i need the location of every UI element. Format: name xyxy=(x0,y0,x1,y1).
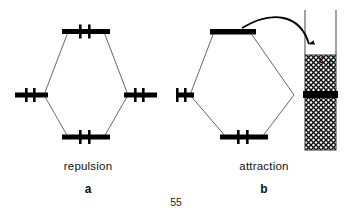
level-left-atomic-a xyxy=(15,88,48,102)
figure-root: repulsion a xyxy=(0,0,352,216)
band-hatched-region xyxy=(305,55,336,150)
level-antibonding-b xyxy=(210,29,256,35)
panel-b-diagram: ϵ F xyxy=(176,0,352,158)
level-antibonding-a xyxy=(62,25,110,39)
level-left-atomic-b xyxy=(176,88,194,102)
level-bonding-b xyxy=(220,130,268,144)
fermi-epsilon-glyph: ϵ xyxy=(319,51,325,66)
level-right-atomic-a xyxy=(124,88,157,102)
panel-b-caption: attraction xyxy=(176,160,352,172)
metal-band xyxy=(303,10,338,150)
band-solid-level-bar xyxy=(303,91,338,98)
page-number: 55 xyxy=(0,196,352,208)
level-bonding-a xyxy=(62,130,110,144)
panel-a-letter: a xyxy=(0,182,176,196)
correlation-lines-a xyxy=(44,32,128,137)
correlation-lines-b xyxy=(190,32,294,137)
panel-a-caption: repulsion xyxy=(0,160,176,172)
panel-b-letter: b xyxy=(176,182,352,196)
panel-a-diagram xyxy=(0,0,176,158)
fermi-subscript-glyph: F xyxy=(327,59,334,69)
